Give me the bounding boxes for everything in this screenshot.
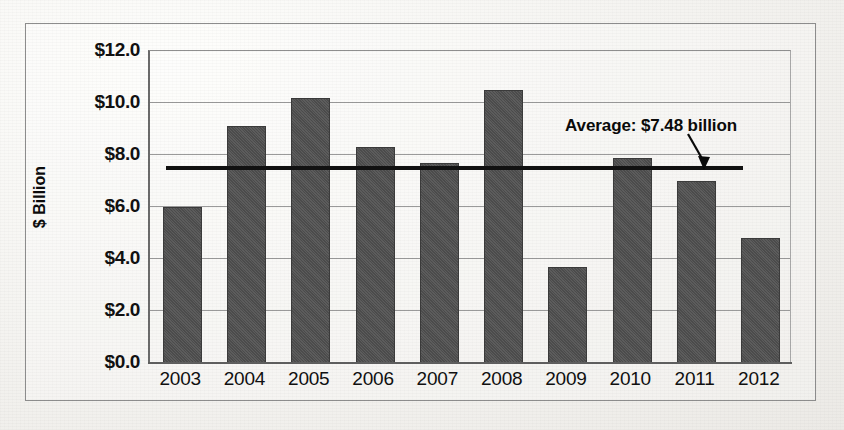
bar-2010[interactable] xyxy=(613,158,652,363)
bar-2003[interactable] xyxy=(163,207,202,363)
bar-2007[interactable] xyxy=(420,163,459,363)
y-axis-title: $ Billion xyxy=(31,137,49,257)
y-tick-6: $6.0 xyxy=(48,195,140,217)
bar-2012[interactable] xyxy=(741,238,780,363)
bar-2011[interactable] xyxy=(677,181,716,363)
plot-area xyxy=(148,50,791,363)
y-tick-2: $2.0 xyxy=(48,299,140,321)
bar-2006[interactable] xyxy=(356,147,395,363)
x-axis-line xyxy=(148,362,792,364)
bar-2009[interactable] xyxy=(548,267,587,363)
bar-2005[interactable] xyxy=(291,98,330,363)
bar-2004[interactable] xyxy=(227,126,266,363)
gridline-10 xyxy=(150,102,790,103)
y-tick-4: $4.0 xyxy=(48,247,140,269)
scanned-chart-page: $12.0 $10.0 $8.0 $6.0 $4.0 $2.0 $0.0 $ B… xyxy=(0,0,844,430)
y-tick-8: $8.0 xyxy=(48,143,140,165)
bar-2008[interactable] xyxy=(484,90,523,363)
annotation-arrow-icon xyxy=(684,132,718,174)
y-axis-tick-labels: $12.0 $10.0 $8.0 $6.0 $4.0 $2.0 $0.0 xyxy=(44,0,140,430)
y-tick-12: $12.0 xyxy=(48,39,140,61)
y-tick-0: $0.0 xyxy=(48,351,140,373)
y-tick-10: $10.0 xyxy=(48,91,140,113)
x-tick-2012: 2012 xyxy=(719,368,799,390)
average-reference-line xyxy=(166,166,743,170)
